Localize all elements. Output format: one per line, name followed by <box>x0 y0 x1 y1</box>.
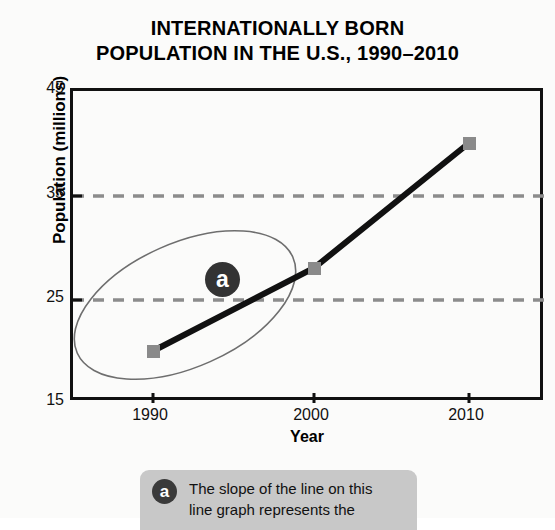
x-tick-label-2000: 2000 <box>276 406 346 424</box>
x-tick-label-1990: 1990 <box>115 406 185 424</box>
y-tick-25: 25 <box>0 289 64 305</box>
chart-title-line-1: INTERNATIONALLY BORN <box>0 16 555 41</box>
x-tick-label-2010: 2010 <box>431 406 501 424</box>
caption-text: The slope of the line on this line graph… <box>189 478 411 520</box>
callout-badge-a: a <box>205 262 240 297</box>
y-tick-label-35: 35 <box>30 185 64 201</box>
chart-title: INTERNATIONALLY BORN POPULATION IN THE U… <box>0 16 555 66</box>
data-point-1990 <box>147 345 160 358</box>
plot-svg <box>73 91 546 403</box>
x-axis-title: Year <box>70 428 544 446</box>
caption-box: a The slope of the line on this line gra… <box>140 470 417 530</box>
plot-area <box>70 88 543 400</box>
y-axis-title: Population (millions) <box>50 15 70 305</box>
y-tick-45: 45 <box>0 80 64 96</box>
y-tick-label-15: 15 <box>30 392 64 408</box>
data-point-2000 <box>308 262 321 275</box>
y-tick-label-25: 25 <box>30 289 64 305</box>
caption-line-1: The slope of the line on this <box>189 478 411 499</box>
y-tick-label-45: 45 <box>30 80 64 96</box>
chart-title-line-2: POPULATION IN THE U.S., 1990–2010 <box>0 41 555 66</box>
y-tick-15: 15 <box>0 392 64 408</box>
data-point-2010 <box>463 137 476 150</box>
caption-badge-a: a <box>152 479 177 504</box>
caption-line-2: line graph represents the <box>189 499 411 520</box>
data-line-series <box>153 143 469 351</box>
y-tick-35: 35 <box>0 185 64 201</box>
